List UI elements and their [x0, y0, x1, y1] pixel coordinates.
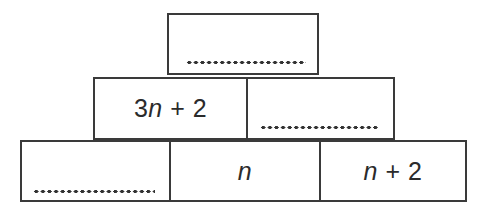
wall-cell-bottom-right-label: n + 2	[364, 159, 423, 184]
variable-n: n	[148, 94, 162, 122]
answer-blank-top[interactable]	[186, 60, 306, 65]
constant-2: 2	[408, 157, 422, 185]
wall-cell-middle-left-label: 3n + 2	[134, 96, 207, 121]
coefficient-3: 3	[134, 94, 148, 122]
wall-cell-middle-left[interactable]: 3n + 2	[93, 77, 248, 140]
wall-cell-bottom-middle-label: n	[238, 159, 252, 184]
operator-plus: +	[378, 157, 408, 185]
variable-n: n	[364, 157, 378, 185]
number-wall-diagram: 3n + 2 n n + 2	[0, 0, 477, 215]
wall-cell-bottom-middle[interactable]: n	[169, 140, 321, 202]
answer-blank-bottom-left[interactable]	[33, 189, 155, 194]
variable-n: n	[238, 157, 252, 185]
operator-plus: +	[163, 94, 193, 122]
wall-cell-bottom-right[interactable]: n + 2	[319, 140, 467, 202]
answer-blank-middle-right[interactable]	[260, 125, 378, 130]
wall-cell-middle-right[interactable]	[246, 77, 395, 140]
wall-cell-top[interactable]	[167, 13, 319, 75]
constant-2: 2	[193, 94, 207, 122]
